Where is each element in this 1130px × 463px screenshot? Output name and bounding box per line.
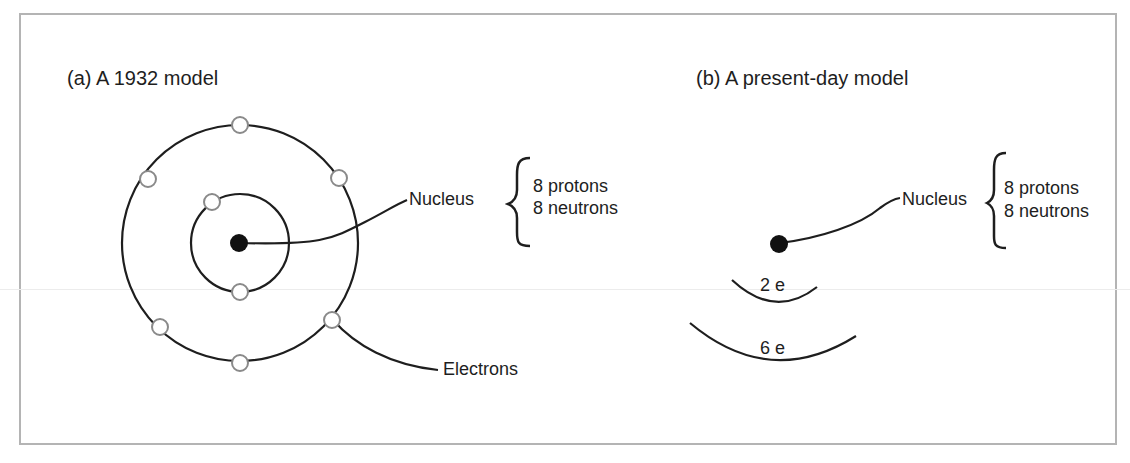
panel-b-modern-model (690, 198, 900, 360)
electron-icon (232, 355, 248, 371)
nucleus-leader-line (780, 198, 900, 243)
panel-a-nucleus-label: Nucleus (409, 190, 474, 208)
brace-icon (508, 158, 530, 246)
electron-icon (232, 284, 248, 300)
panel-a-nucleus (230, 234, 248, 252)
electron-icon (232, 117, 248, 133)
shell-label-2e: 2 e (760, 276, 785, 294)
electrons-leader-line (333, 320, 438, 370)
electron-icon (331, 170, 347, 186)
panel-a-title: (a) A 1932 model (67, 68, 218, 88)
electron-icon (152, 319, 168, 335)
panel-a-neutrons-label: 8 neutrons (533, 199, 618, 217)
panel-a-electrons-label: Electrons (443, 360, 518, 378)
panel-a-bohr-model (122, 125, 438, 370)
panel-b-title: (b) A present-day model (696, 68, 908, 88)
electron-icon (140, 171, 156, 187)
panel-b-neutrons-label: 8 neutrons (1004, 202, 1089, 220)
panel-a-protons-label: 8 protons (533, 177, 608, 195)
panel-b-nucleus-label: Nucleus (902, 190, 967, 208)
panel-b-nucleus (770, 235, 788, 253)
electron-icon (204, 194, 220, 210)
shell-label-6e: 6 e (760, 339, 785, 357)
panel-b-protons-label: 8 protons (1004, 179, 1079, 197)
nucleus-leader-line (240, 200, 407, 243)
electron-icon (324, 312, 340, 328)
